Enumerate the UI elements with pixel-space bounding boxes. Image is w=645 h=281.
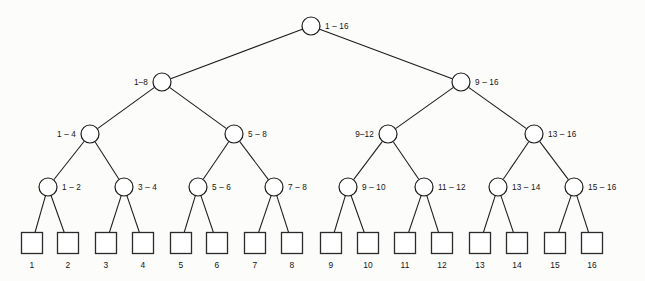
leaf-node-12[interactable]: 12 [432,233,453,271]
leaf-node-5[interactable]: 5 [171,233,192,271]
leaf-node-14[interactable]: 14 [507,233,528,271]
internal-node-11-12[interactable]: 11 – 12 [415,178,466,196]
internal-node-13-14[interactable]: 13 – 14 [489,178,541,196]
leaf-square[interactable] [395,233,416,254]
internal-node-9-10[interactable]: 9 – 10 [339,178,386,196]
internal-node-9-16[interactable]: 9 – 16 [452,73,499,91]
tree-edge [559,196,571,233]
internal-node-1-2[interactable]: 1 – 2 [39,178,81,196]
internal-node-3-4[interactable]: 3 – 4 [115,178,157,196]
leaf-node-3[interactable]: 3 [96,233,117,271]
leaf-node-7[interactable]: 7 [245,233,266,271]
leaf-square[interactable] [58,233,79,254]
node-interval-label: 7 – 8 [288,183,307,192]
leaf-index-label: 10 [363,260,373,270]
tree-edge [483,196,495,233]
node-interval-label: 13 – 14 [512,183,541,192]
node-circle[interactable] [153,73,171,91]
node-interval-label: 5 – 6 [212,183,231,192]
node-circle[interactable] [265,178,283,196]
leaf-index-label: 11 [401,260,410,270]
leaf-node-4[interactable]: 4 [133,233,154,271]
leaf-square[interactable] [282,233,303,254]
node-circle[interactable] [452,73,470,91]
leaf-square[interactable] [171,233,192,254]
leaf-square[interactable] [545,233,566,254]
tree-edge [540,141,569,179]
node-circle[interactable] [225,125,243,143]
tree-edge [98,87,155,128]
tree-edge [393,142,419,180]
node-interval-label: 9 – 16 [475,78,499,87]
leaf-index-label: 5 [179,260,184,270]
leaf-node-15[interactable]: 15 [545,233,566,271]
node-interval-label: 9–12 [355,130,374,139]
leaf-node-8[interactable]: 8 [282,233,303,271]
tree-edge [396,87,454,128]
leaf-node-9[interactable]: 9 [321,233,342,271]
node-circle[interactable] [415,178,433,196]
leaf-square[interactable] [507,233,528,254]
leaf-square[interactable] [245,233,266,254]
tree-edge [277,196,289,233]
leaf-square[interactable] [432,233,453,254]
leaf-index-label: 3 [104,260,109,270]
tree-edge [503,142,529,180]
leaf-index-label: 8 [290,260,295,270]
tree-edge [54,141,84,179]
leaf-square[interactable] [207,233,228,254]
node-interval-label: 1 – 16 [325,22,349,31]
leaf-node-13[interactable]: 13 [470,233,491,271]
node-interval-label: 13 – 16 [548,130,577,139]
leaf-square[interactable] [358,233,379,254]
tree-edge [51,196,64,233]
node-circle[interactable] [379,125,397,143]
internal-node-5-8[interactable]: 5 – 8 [225,125,267,143]
leaf-square[interactable] [96,233,117,254]
internal-node-1-16[interactable]: 1 – 16 [302,17,349,35]
leaf-index-label: 1 [30,260,35,270]
leaf-index-label: 13 [475,260,485,270]
leaf-index-label: 12 [437,260,447,270]
leaf-node-2[interactable]: 2 [58,233,79,271]
leaf-index-label: 16 [587,260,597,270]
node-interval-label: 1–8 [134,78,148,87]
internal-node-5-6[interactable]: 5 – 6 [189,178,231,196]
node-circle[interactable] [302,17,320,35]
node-circle[interactable] [39,178,57,196]
tree-edge [259,196,271,233]
tree-diagram-canvas: 1 – 161–89 – 161 – 45 – 89–1213 – 161 – … [0,0,645,281]
leaf-nodes-layer: 12345678910111213141516 [22,233,603,271]
leaf-node-10[interactable]: 10 [358,233,379,271]
leaf-index-label: 9 [329,260,334,270]
leaf-square[interactable] [470,233,491,254]
node-circle[interactable] [525,125,543,143]
internal-node-9-12[interactable]: 9–12 [355,125,397,143]
edges-layer [35,29,589,232]
leaf-square[interactable] [133,233,154,254]
node-circle[interactable] [81,125,99,143]
node-circle[interactable] [339,178,357,196]
leaf-square[interactable] [582,233,603,254]
leaf-node-16[interactable]: 16 [582,233,603,271]
leaf-index-label: 15 [550,260,560,270]
leaf-node-6[interactable]: 6 [207,233,228,271]
leaf-square[interactable] [321,233,342,254]
leaf-node-1[interactable]: 1 [22,233,43,271]
internal-node-15-16[interactable]: 15 – 16 [565,178,617,196]
node-circle[interactable] [115,178,133,196]
node-interval-label: 9 – 10 [362,183,386,192]
internal-node-7-8[interactable]: 7 – 8 [265,178,307,196]
node-interval-label: 15 – 16 [588,183,617,192]
internal-node-1-4[interactable]: 1 – 4 [57,125,99,143]
tree-edge [203,142,229,180]
tree-edge [109,196,121,233]
leaf-node-11[interactable]: 11 [395,233,416,271]
node-circle[interactable] [565,178,583,196]
node-circle[interactable] [189,178,207,196]
tree-edge [95,142,119,179]
node-circle[interactable] [489,178,507,196]
node-interval-label: 11 – 12 [438,183,466,192]
leaf-square[interactable] [22,233,43,254]
internal-node-13-16[interactable]: 13 – 16 [525,125,577,143]
